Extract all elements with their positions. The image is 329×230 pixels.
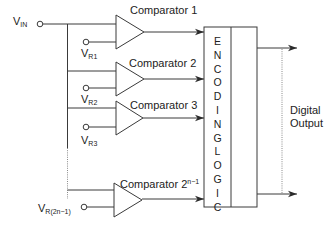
vr3-terminal-icon [83, 124, 89, 130]
vin-terminal-icon [37, 21, 43, 27]
digital-output-label: Digital Output [290, 104, 323, 130]
vr1-terminal-icon [83, 39, 89, 45]
vr3-label: VR3 [81, 135, 97, 147]
encoding-logic-text: E N C O D I N G L O G I C [204, 27, 231, 207]
vr2-label: VR2 [81, 94, 97, 106]
vin-label: VIN [13, 16, 27, 28]
vr2-terminal-icon [83, 85, 89, 91]
vrn-terminal-icon [81, 204, 87, 210]
comparator-3-label: Comparator 3 [130, 100, 197, 111]
comparator-1-label: Comparator 1 [130, 5, 197, 16]
comparator-1-symbol [116, 15, 144, 49]
vrn-label: VR(2n−1) [38, 203, 71, 215]
vr1-label: VR1 [81, 48, 97, 60]
comparator-2-label: Comparator 2 [129, 58, 196, 69]
diagram-canvas [0, 0, 329, 230]
comparator-n-label: Comparator 2n−1 [120, 178, 199, 190]
